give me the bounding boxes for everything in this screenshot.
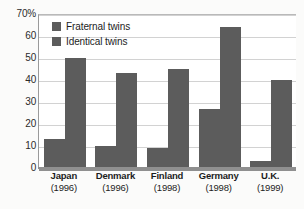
- x-axis-category-label: Japan(1996): [38, 170, 90, 194]
- bar-uk-identical: [271, 80, 292, 168]
- x-axis-category-year: (1999): [244, 182, 296, 194]
- y-axis-tick-label: 30: [2, 97, 36, 107]
- bar-japan-fraternal: [44, 139, 65, 168]
- x-axis-category-year: (1998): [193, 182, 245, 194]
- bar-chart-figure: 70%6050403020100 Fraternal twinsIdentica…: [0, 0, 304, 209]
- legend-swatch-icon: [52, 37, 61, 46]
- bar-denmark-identical: [116, 73, 137, 168]
- x-axis-line: [38, 167, 296, 169]
- x-axis-category-label: Germany(1998): [193, 170, 245, 194]
- y-axis-tick-label: 0: [2, 163, 36, 173]
- chart-legend: Fraternal twinsIdentical twins: [52, 20, 130, 50]
- y-axis-tick-label: 40: [2, 75, 36, 85]
- bar-denmark-fraternal: [95, 146, 116, 168]
- x-axis-category-name: Denmark: [90, 170, 142, 182]
- x-axis-category-year: (1996): [90, 182, 142, 194]
- x-axis-category-label: Denmark(1996): [90, 170, 142, 194]
- y-axis-tick-label: 20: [2, 119, 36, 129]
- y-axis-tick-label: 50: [2, 53, 36, 63]
- legend-label: Identical twins: [66, 37, 127, 47]
- bar-group: [194, 15, 246, 168]
- y-axis-tick-label: 70%: [2, 9, 36, 19]
- x-axis-category-label: U.K.(1999): [244, 170, 296, 194]
- x-axis-category-name: U.K.: [244, 170, 296, 182]
- y-axis-tick-label: 10: [2, 141, 36, 151]
- bar-japan-identical: [65, 58, 86, 168]
- legend-item: Identical twins: [52, 35, 130, 48]
- x-axis-category-year: (1998): [141, 182, 193, 194]
- bar-group: [142, 15, 194, 168]
- bar-germany-identical: [220, 27, 241, 168]
- bar-finland-fraternal: [147, 148, 168, 168]
- legend-label: Fraternal twins: [66, 22, 130, 32]
- bar-group: [245, 15, 297, 168]
- x-axis-category-name: Finland: [141, 170, 193, 182]
- x-axis-category-name: Germany: [193, 170, 245, 182]
- y-axis-tick-label: 60: [2, 31, 36, 41]
- y-axis: 70%6050403020100: [0, 0, 36, 209]
- bar-finland-identical: [168, 69, 189, 168]
- x-axis-category-label: Finland(1998): [141, 170, 193, 194]
- bar-germany-fraternal: [199, 109, 220, 168]
- legend-item: Fraternal twins: [52, 20, 130, 33]
- x-axis-category-year: (1996): [38, 182, 90, 194]
- x-axis-category-name: Japan: [38, 170, 90, 182]
- x-axis-labels: Japan(1996)Denmark(1996)Finland(1998)Ger…: [38, 170, 296, 209]
- legend-swatch-icon: [52, 22, 61, 31]
